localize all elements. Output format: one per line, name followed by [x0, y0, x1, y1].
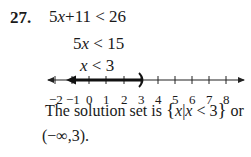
solution-interval: (−∞,3). [42, 127, 89, 145]
left-arrow-icon [47, 77, 54, 83]
solution-statement: The solution set is {x|x < 3} or [45, 99, 244, 121]
solution-prefix: The solution set is [45, 102, 166, 119]
set-close-brace: } [217, 99, 226, 120]
step-rest: +11 < 26 [65, 7, 126, 26]
set-cond-rest: < 3 [192, 102, 217, 119]
right-arrow-icon [238, 77, 245, 83]
step-var: x [82, 34, 90, 53]
step-coef: 5 [49, 7, 58, 26]
set-open-brace: { [166, 99, 175, 120]
problem-number: 27. [10, 8, 31, 28]
solution-arrow-icon [66, 76, 76, 85]
step-var: x [58, 7, 66, 26]
solution-or: or [227, 102, 244, 119]
step-rest: < 15 [89, 34, 124, 53]
inequality-step-2: 5x < 15 [73, 34, 124, 54]
inequality-step-1: 5x+11 < 26 [49, 7, 126, 27]
step-coef: 5 [73, 34, 82, 53]
